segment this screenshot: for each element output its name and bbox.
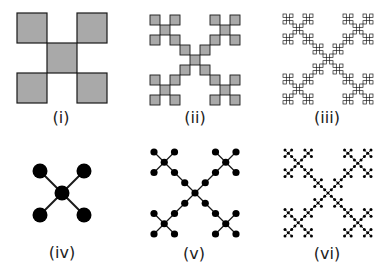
- fractal-square: [326, 57, 329, 60]
- fractal-square: [363, 21, 366, 24]
- fractal-square: [320, 51, 323, 54]
- graph-node: [307, 231, 310, 234]
- graph-node: [323, 195, 326, 198]
- graph-node: [320, 198, 323, 201]
- graph-node: [356, 221, 359, 224]
- graph-node: [363, 208, 366, 211]
- fractal-square: [230, 75, 240, 85]
- fractal-square: [210, 15, 220, 25]
- fractal-square: [306, 97, 309, 100]
- fractal-square: [343, 74, 346, 77]
- fractal-square: [290, 41, 293, 44]
- graph-node: [330, 195, 333, 198]
- fractal-square: [350, 41, 353, 44]
- fractal-square: [283, 81, 286, 84]
- graph-node: [370, 208, 373, 211]
- graph-node: [370, 149, 373, 152]
- graph-node: [150, 169, 157, 176]
- fractal-square: [353, 91, 356, 94]
- fractal-square: [343, 41, 346, 44]
- graph-node: [284, 208, 287, 211]
- fractal-square: [350, 101, 353, 104]
- fractal-square: [230, 95, 240, 105]
- fractal-square: [370, 21, 373, 24]
- graph-node: [330, 188, 333, 191]
- graph-node: [303, 168, 306, 171]
- graph-node: [290, 155, 293, 158]
- fractal-square: [370, 34, 373, 37]
- graph-node: [161, 220, 168, 227]
- fractal-square: [310, 14, 313, 17]
- graph-node: [343, 235, 346, 238]
- fractal-square: [290, 81, 293, 84]
- graph-node: [212, 148, 219, 155]
- graph-node: [343, 215, 346, 218]
- graph-node: [293, 218, 296, 221]
- fractal-square: [333, 71, 336, 74]
- fractal-square: [310, 94, 313, 97]
- panel-iii-vicsek-squares-level-3: [283, 14, 373, 104]
- fractal-square: [340, 51, 343, 54]
- graph-node: [212, 230, 219, 237]
- fractal-square: [366, 97, 369, 100]
- graph-node: [353, 218, 356, 221]
- graph-node: [313, 205, 316, 208]
- fractal-square: [286, 97, 289, 100]
- graph-node: [232, 148, 239, 155]
- graph-node: [300, 218, 303, 221]
- fractal-square: [180, 65, 190, 75]
- fractal-square: [320, 64, 323, 67]
- graph-node: [293, 165, 296, 168]
- fractal-square: [350, 81, 353, 84]
- fractal-square: [283, 74, 286, 77]
- graph-node: [284, 228, 287, 231]
- fractal-square: [303, 94, 306, 97]
- graph-node: [290, 208, 293, 211]
- graph-node: [363, 149, 366, 152]
- graph-node: [366, 231, 369, 234]
- fractal-square: [343, 81, 346, 84]
- fractal-square: [290, 14, 293, 17]
- graph-node: [366, 152, 369, 155]
- graph-node: [370, 155, 373, 158]
- graph-node: [346, 211, 349, 214]
- fractal-square: [363, 94, 366, 97]
- panel-label-vi: (vi): [314, 246, 340, 262]
- fractal-square: [346, 37, 349, 40]
- graph-node: [343, 228, 346, 231]
- graph-node: [336, 201, 339, 204]
- graph-node: [150, 230, 157, 237]
- graph-node: [346, 172, 349, 175]
- graph-node: [290, 215, 293, 218]
- fractal-square: [340, 71, 343, 74]
- graph-node: [346, 231, 349, 234]
- fractal-square: [350, 74, 353, 77]
- graph-node: [171, 230, 178, 237]
- fractal-square: [340, 44, 343, 47]
- graph-node: [346, 152, 349, 155]
- fractal-square: [290, 74, 293, 77]
- fractal-square: [210, 35, 220, 45]
- graph-node: [340, 198, 343, 201]
- fractal-square: [17, 73, 47, 103]
- fractal-square: [366, 17, 369, 20]
- graph-node: [343, 175, 346, 178]
- fractal-square: [306, 17, 309, 20]
- panel-label-ii: (ii): [184, 110, 205, 126]
- graph-node: [350, 215, 353, 218]
- fractal-square: [303, 21, 306, 24]
- fractal-square: [306, 37, 309, 40]
- fractal-square: [360, 84, 363, 87]
- fractal-square: [220, 25, 230, 35]
- graph-node: [323, 188, 326, 191]
- fractal-square: [293, 91, 296, 94]
- graph-node: [317, 182, 320, 185]
- graph-node: [313, 178, 316, 181]
- graph-node: [343, 149, 346, 152]
- fractal-square: [370, 81, 373, 84]
- graph-node: [33, 208, 48, 223]
- fractal-square: [303, 101, 306, 104]
- fractal-square: [350, 21, 353, 24]
- fractal-square: [210, 75, 220, 85]
- fractal-square: [336, 67, 339, 70]
